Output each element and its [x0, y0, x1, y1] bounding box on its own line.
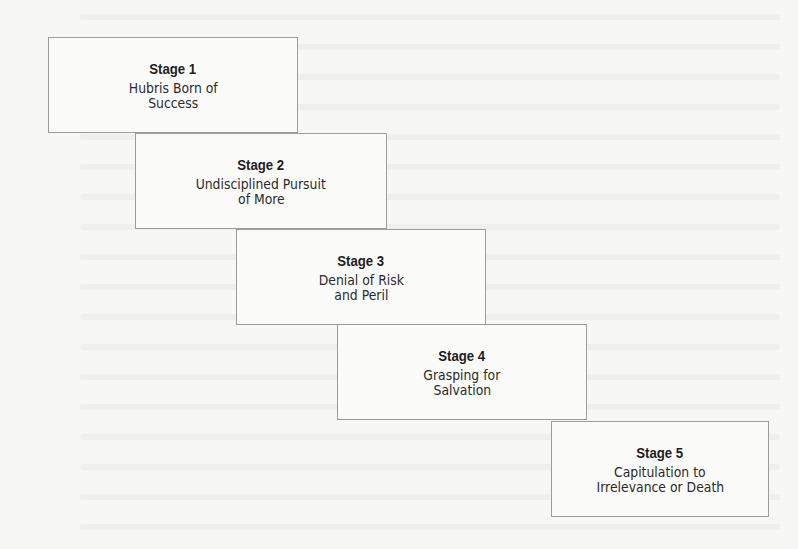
stage-2-box: Stage 2 Undisciplined Pursuit of More — [135, 133, 387, 229]
stage-5-title: Stage 5 — [637, 444, 684, 462]
stage-3-description-line-1: Denial of Risk — [318, 273, 403, 288]
stage-4-box: Stage 4 Grasping for Salvation — [337, 324, 587, 420]
stage-1-description-line-1: Hubris Born of — [129, 81, 218, 96]
stage-1-title: Stage 1 — [150, 60, 197, 78]
stage-3-description-line-2: and Peril — [334, 288, 388, 303]
stage-1-box: Stage 1 Hubris Born of Success — [48, 37, 298, 133]
stage-3-title: Stage 3 — [338, 252, 385, 270]
stage-2-description-line-1: Undisciplined Pursuit — [196, 177, 326, 192]
stage-5-description-line-1: Capitulation to — [614, 465, 706, 480]
stage-3-box: Stage 3 Denial of Risk and Peril — [236, 229, 486, 325]
stage-2-title: Stage 2 — [238, 156, 285, 174]
stage-4-title: Stage 4 — [439, 347, 486, 365]
stage-1-description-line-2: Success — [148, 96, 198, 111]
stage-4-description-line-1: Grasping for — [424, 368, 501, 383]
stage-2-description-line-2: of More — [238, 192, 285, 207]
stage-5-box: Stage 5 Capitulation to Irrelevance or D… — [551, 421, 769, 517]
stage-5-description-line-2: Irrelevance or Death — [596, 480, 724, 495]
stage-4-description-line-2: Salvation — [433, 383, 491, 398]
